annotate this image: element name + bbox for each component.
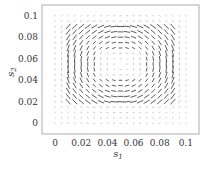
svg-text:0.04: 0.04 xyxy=(97,138,117,148)
y-axis-label: s2 xyxy=(5,67,18,77)
svg-text:0.1: 0.1 xyxy=(24,11,38,21)
vector-field xyxy=(54,15,186,124)
x-axis-label: s1 xyxy=(113,148,123,161)
x-axis-ticks: 00.020.040.060.080.1 xyxy=(52,138,193,148)
svg-text:0: 0 xyxy=(52,138,58,148)
svg-text:0.08: 0.08 xyxy=(18,32,38,42)
svg-text:0.02: 0.02 xyxy=(18,97,38,107)
quiver-chart: 00.020.040.060.080.1 00.020.040.060.080.… xyxy=(0,0,210,171)
svg-text:0.1: 0.1 xyxy=(179,138,193,148)
svg-text:0.06: 0.06 xyxy=(18,54,38,64)
y-axis-ticks: 00.020.040.060.080.1 xyxy=(18,11,38,129)
svg-text:0.08: 0.08 xyxy=(150,138,170,148)
svg-text:0.06: 0.06 xyxy=(124,138,144,148)
svg-text:0.02: 0.02 xyxy=(71,138,91,148)
svg-text:0.04: 0.04 xyxy=(18,75,38,85)
svg-text:0: 0 xyxy=(32,118,38,128)
